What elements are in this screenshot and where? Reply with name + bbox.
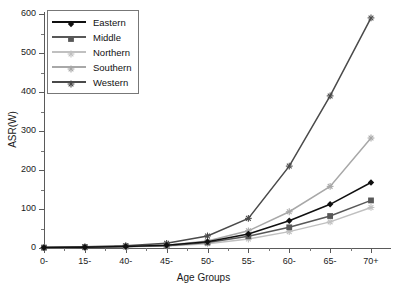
legend-swatch [52,31,86,43]
x-axis-line [43,248,391,249]
diamond-marker [286,218,292,224]
legend-item-eastern[interactable]: Eastern [52,15,132,29]
x-tick-minor [310,248,311,251]
x-tick-minor [269,248,270,251]
star-marker [368,204,375,211]
legend-label: Western [93,77,128,88]
legend-swatch [52,16,86,28]
x-tick-label: 45- [147,256,187,266]
y-axis-tick-labels: 0100200300400500600 [0,0,36,292]
x-tick-minor [105,248,106,251]
star-marker [327,183,334,190]
legend-swatch [52,76,86,88]
x-tick-label: 70+ [351,256,391,266]
diamond-marker [327,201,333,207]
diamond-marker [68,21,74,27]
x-tick-label: 65- [310,256,350,266]
y-tick-label: 500 [6,48,36,57]
star-marker [286,163,293,170]
x-tick-minor [146,248,147,251]
star-marker [286,208,293,215]
x-tick [248,248,249,253]
legend-label: Northern [93,47,130,58]
star-marker [204,233,211,240]
x-tick-label: 50- [188,256,228,266]
x-tick [208,248,209,253]
star-marker [68,66,75,73]
square-marker [368,198,374,204]
star-marker [327,93,334,100]
square-marker [327,213,333,219]
diamond-marker [368,179,374,185]
x-tick-label: 55- [228,256,268,266]
legend-item-southern[interactable]: Southern [52,60,132,74]
star-icon [65,48,77,60]
diamond-icon [65,18,77,30]
x-tick [371,248,372,253]
x-tick-minor [351,248,352,251]
legend-swatch [52,61,86,73]
x-tick-minor [228,248,229,251]
x-tick [289,248,290,253]
x-tick [330,248,331,253]
legend-item-western[interactable]: Western [52,75,132,89]
square-icon [65,33,77,45]
y-tick-label: 100 [6,204,36,213]
x-tick-label: 0- [24,256,64,266]
x-axis-title: Age Groups [0,272,407,283]
x-tick-minor [64,248,65,251]
legend-item-middle[interactable]: Middle [52,30,132,44]
legend-label: Southern [93,62,132,73]
x-tick-label: 60- [269,256,309,266]
legend-swatch [52,46,86,58]
star-marker [245,215,252,222]
y-tick-label: 0 [6,243,36,252]
y-tick-label: 600 [6,9,36,18]
legend-label: Eastern [93,17,126,28]
y-axis-title: ASR(W) [7,90,18,170]
star-marker [68,81,75,88]
legend-label: Middle [93,32,121,43]
x-tick-label: 15- [65,256,105,266]
star-marker [368,15,375,22]
series-line [44,138,371,248]
star-marker [327,218,334,225]
star-icon [65,63,77,75]
x-tick-minor [187,248,188,251]
x-tick-label: 40- [106,256,146,266]
square-marker [68,36,74,42]
square-marker [286,224,292,230]
star-marker [68,51,75,58]
star-icon [65,78,77,90]
chart-legend: EasternMiddleNorthernSouthernWestern [47,10,139,94]
line-chart: 0100200300400500600 0-15-40-45-50-55-60-… [0,0,407,292]
star-marker [368,135,375,142]
legend-item-northern[interactable]: Northern [52,45,132,59]
